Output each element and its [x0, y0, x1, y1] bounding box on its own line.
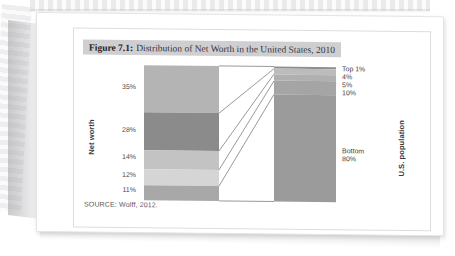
value-label-population-10: 10% — [342, 89, 356, 97]
page-sheet: Figure 7.1: Distribution of Net Worth in… — [36, 12, 444, 236]
connector-line-2 — [219, 68, 274, 114]
connector-line-1 — [219, 66, 274, 67]
connector-line-6 — [219, 201, 274, 202]
figure-title: Distribution of Net Worth in the United … — [136, 43, 335, 55]
segment-population-10 — [274, 81, 336, 95]
source-note: SOURCE: Wolff, 2012. — [84, 201, 158, 209]
value-label-net-worth-4: 12% — [112, 171, 136, 178]
chart-plot-area: Net worth U.S. population 35% 28% 14% 12… — [74, 62, 430, 216]
figure-caption: Figure 7.1: Distribution of Net Worth in… — [83, 39, 341, 57]
segment-net-worth-2 — [144, 112, 219, 151]
axis-title-net-worth: Net worth — [87, 102, 96, 172]
notebook-page-screenshot: Figure 7.1: Distribution of Net Worth in… — [0, 0, 455, 256]
value-label-net-worth-5: 11% — [112, 186, 136, 193]
bar-us-population — [274, 66, 336, 67]
connector-line-3 — [219, 74, 274, 152]
bar-net-worth — [144, 65, 219, 66]
axis-title-us-population: U.S. population — [397, 108, 406, 188]
segment-net-worth-4 — [144, 169, 219, 186]
figure-frame: Figure 7.1: Distribution of Net Worth in… — [73, 27, 431, 231]
value-label-net-worth-1: 35% — [112, 83, 136, 90]
segment-net-worth-3 — [144, 150, 219, 170]
value-label-net-worth-2: 28% — [112, 126, 136, 133]
figure-number: Figure 7.1: — [89, 42, 133, 52]
value-label-population-bottom-pct: 80% — [342, 155, 356, 163]
connector-line-4 — [219, 80, 274, 170]
connector-line-5 — [219, 94, 274, 187]
segment-net-worth-1 — [144, 65, 219, 113]
value-label-net-worth-3: 14% — [112, 153, 136, 160]
segment-net-worth-5 — [144, 185, 219, 201]
segment-population-bottom80 — [274, 94, 336, 202]
